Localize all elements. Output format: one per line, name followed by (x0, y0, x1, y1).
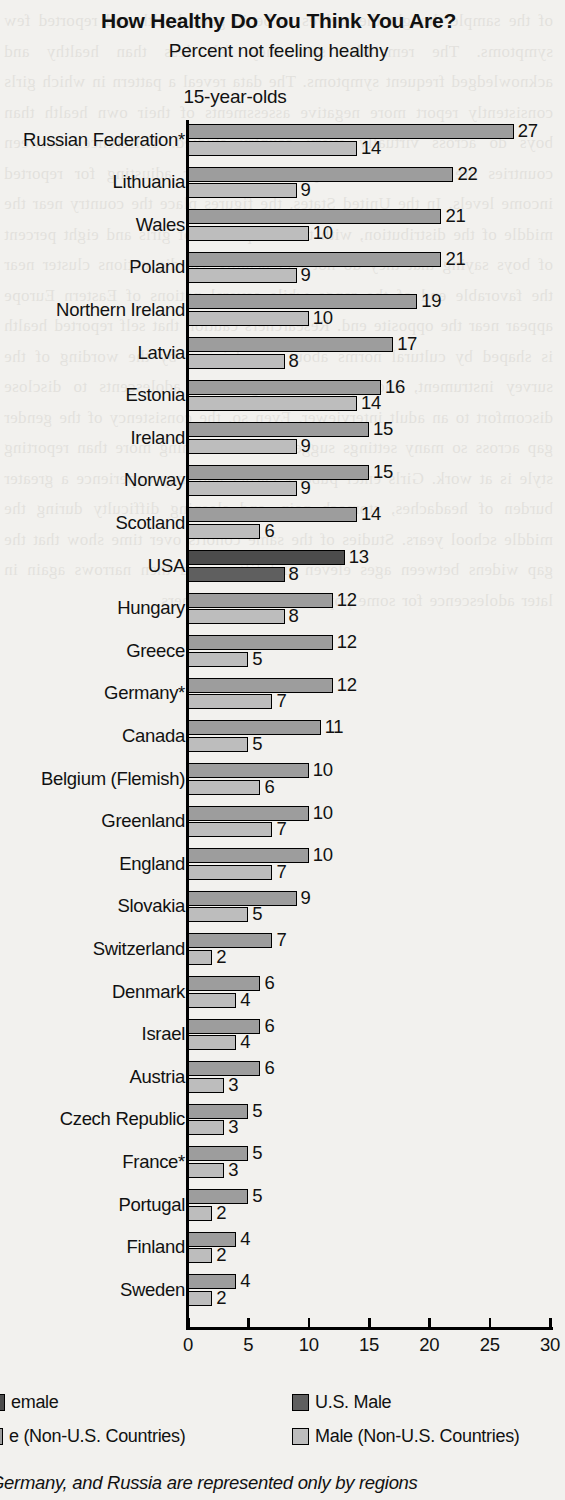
category-label: Finland (0, 1236, 185, 1258)
bar-value-label: 10 (313, 844, 333, 866)
bar-group: Germany*127 (0, 678, 557, 721)
bar-value-label: 17 (397, 333, 417, 355)
bar-group: Estonia1614 (0, 380, 557, 423)
bar-value-label: 9 (301, 477, 311, 499)
bar-value-label: 5 (252, 1100, 262, 1122)
bar-value-label: 8 (289, 605, 299, 627)
bar-value-label: 2 (216, 1244, 226, 1266)
bar-value-label: 14 (361, 392, 381, 414)
female-bar (188, 294, 417, 309)
x-axis-tick-label: 15 (346, 1334, 392, 1356)
bar-value-label: 10 (313, 759, 333, 781)
female-bar (188, 124, 514, 139)
x-axis-tick-label: 0 (165, 1334, 211, 1356)
bar-value-label: 7 (276, 690, 286, 712)
male-bar (188, 1291, 212, 1306)
bar-group: Greenland107 (0, 806, 557, 849)
male-bar (188, 993, 236, 1008)
male-bar (188, 439, 297, 454)
bar-group: Ireland159 (0, 422, 557, 465)
male-bar (188, 609, 285, 624)
male-bar (188, 1206, 212, 1221)
female-bar (188, 763, 309, 778)
bar-value-label: 2 (216, 946, 226, 968)
female-bar (188, 465, 369, 480)
category-label: Estonia (0, 384, 185, 406)
bar-group: Scotland146 (0, 507, 557, 550)
male-bar (188, 311, 309, 326)
bar-value-label: 15 (373, 461, 393, 483)
chart-footnote: Germany, and Russia are represented only… (0, 1472, 418, 1494)
bar-value-label: 9 (301, 264, 311, 286)
bar-group: Lithuania229 (0, 167, 557, 210)
bar-group: Sweden42 (0, 1274, 557, 1317)
x-axis-tick (549, 1318, 552, 1327)
bar-value-label: 7 (276, 929, 286, 951)
category-label: Hungary (0, 597, 185, 619)
chart-subtitle: Percent not feeling healthy (0, 40, 557, 62)
male-bar (188, 780, 260, 795)
category-label: Ireland (0, 427, 185, 449)
bar-value-label: 13 (349, 546, 369, 568)
category-label: Sweden (0, 1279, 185, 1301)
male-bar (188, 481, 297, 496)
bar-group: Northern Ireland1910 (0, 294, 557, 337)
bar-value-label: 12 (337, 674, 357, 696)
bar-group: Portugal52 (0, 1189, 557, 1232)
male-bar (188, 652, 248, 667)
legend-item-male: Male (Non-U.S. Countries) (292, 1426, 520, 1447)
legend-item-us-female: emale (0, 1392, 59, 1413)
female-bar (188, 252, 441, 267)
bar-value-label: 9 (301, 179, 311, 201)
bar-value-label: 21 (445, 248, 465, 270)
category-label: Russian Federation* (0, 129, 185, 151)
female-bar (188, 422, 369, 437)
male-bar (188, 354, 285, 369)
us-male-bar (188, 567, 285, 582)
female-bar (188, 1061, 260, 1076)
x-axis-tick-label: 10 (286, 1334, 332, 1356)
x-axis-tick (368, 1318, 371, 1327)
bar-value-label: 6 (264, 972, 274, 994)
female-bar (188, 806, 309, 821)
male-bar (188, 950, 212, 965)
bar-value-label: 9 (301, 435, 311, 457)
bar-group: Israel64 (0, 1019, 557, 1062)
x-axis-tick-label: 20 (406, 1334, 452, 1356)
male-bar (188, 1163, 224, 1178)
bar-group: Hungary128 (0, 593, 557, 636)
male-bar (188, 1035, 236, 1050)
bar-value-label: 12 (337, 631, 357, 653)
x-axis-tick (428, 1318, 431, 1327)
x-axis-tick-label: 5 (225, 1334, 271, 1356)
page-title: How Healthy Do You Think You Are? (0, 9, 557, 33)
x-axis-tick (308, 1318, 311, 1327)
bar-group: Austria63 (0, 1061, 557, 1104)
bar-group: Wales2110 (0, 209, 557, 252)
bar-value-label: 6 (264, 1015, 274, 1037)
male-bar (188, 396, 357, 411)
female-bar (188, 678, 333, 693)
bar-group: Russian Federation*2714 (0, 124, 557, 167)
male-bar (188, 907, 248, 922)
bar-value-label: 4 (240, 989, 250, 1011)
us-female-bar (188, 550, 345, 565)
category-label: Canada (0, 725, 185, 747)
bar-value-label: 7 (276, 818, 286, 840)
male-bar (188, 694, 272, 709)
us-female-swatch-icon (0, 1394, 5, 1411)
bar-group: Switzerland72 (0, 933, 557, 976)
bar-value-label: 8 (289, 350, 299, 372)
bar-value-label: 9 (301, 887, 311, 909)
bar-group: France*53 (0, 1146, 557, 1189)
bar-value-label: 2 (216, 1287, 226, 1309)
bar-group: Czech Republic53 (0, 1104, 557, 1147)
bar-value-label: 3 (228, 1116, 238, 1138)
male-bar (188, 226, 309, 241)
category-label: Austria (0, 1066, 185, 1088)
category-label: Wales (0, 214, 185, 236)
male-bar (188, 524, 260, 539)
bar-group: Canada115 (0, 720, 557, 763)
category-label: Czech Republic (0, 1108, 185, 1130)
